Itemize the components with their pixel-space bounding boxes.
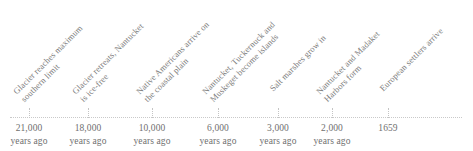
event-label-line: European settlers arrive (378, 26, 446, 94)
tick-mark (152, 108, 153, 118)
tick-mark (88, 108, 89, 118)
tick-mark (278, 108, 279, 118)
tick-mark (332, 108, 333, 118)
event-label: European settlers arrive (378, 26, 446, 94)
tick-mark (388, 108, 389, 118)
timeline-axis (10, 117, 462, 118)
tick-mark (218, 108, 219, 118)
tick-label-value: 1659 (343, 122, 433, 135)
tick-label: 1659 (343, 122, 433, 135)
tick-mark (29, 108, 30, 118)
timeline-figure: 21,000years ago18,000years ago10,000year… (0, 0, 473, 151)
tick-label-unit: years ago (287, 135, 377, 148)
